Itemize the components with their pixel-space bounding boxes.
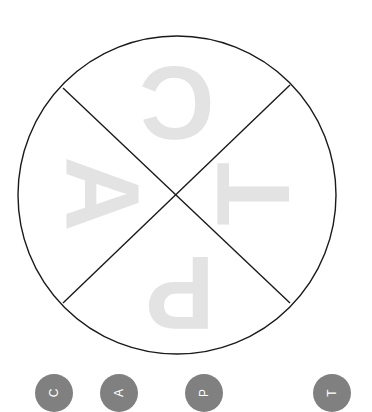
badge-row: C A P T <box>0 368 372 400</box>
badge-c[interactable]: C <box>35 374 73 412</box>
badge-a[interactable]: A <box>100 374 138 412</box>
capt-wheel[interactable]: C A T P <box>0 0 372 372</box>
quadrant-letter-group-right: T <box>195 162 311 226</box>
quadrant-letter-c: C <box>139 45 214 161</box>
badge-p[interactable]: P <box>185 374 223 412</box>
quadrant-letter-t: T <box>195 162 311 226</box>
quadrant-letter-p: P <box>145 235 214 351</box>
capt-wheel-svg: C A T P <box>0 0 372 372</box>
quadrant-letter-group-left: A <box>45 156 161 231</box>
badge-a-label: A <box>113 389 125 397</box>
quadrant-letter-a: A <box>45 156 161 231</box>
badge-t-label: T <box>326 389 338 396</box>
quadrant-letter-group-top: C <box>139 45 214 161</box>
badge-t[interactable]: T <box>313 374 351 412</box>
quadrant-letter-group-bottom: P <box>145 235 214 351</box>
badge-c-label: C <box>48 389 60 398</box>
badge-p-label: P <box>198 389 210 397</box>
